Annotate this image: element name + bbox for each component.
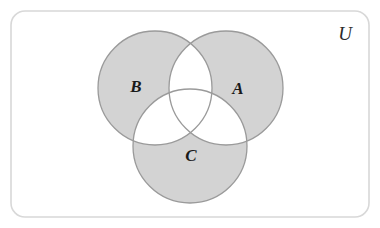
venn-diagram-canvas: B A C U [0, 0, 380, 228]
universal-set-label: U [338, 23, 353, 44]
region-c-only [0, 0, 380, 228]
venn-diagram-figure: B A C U [0, 0, 380, 228]
shaded-regions [0, 0, 380, 228]
set-label-c: C [185, 146, 197, 165]
set-label-a: A [231, 79, 243, 98]
set-label-b: B [129, 77, 141, 96]
